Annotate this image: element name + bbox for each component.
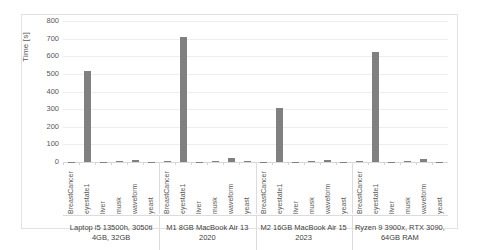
axis-tick-mark: [143, 162, 144, 165]
y-axis-tick-label: 500: [46, 70, 59, 78]
y-axis-tick-label: 600: [46, 53, 59, 61]
x-axis-category-label: yeast: [340, 197, 347, 214]
axis-tick-mark: [207, 162, 208, 165]
axis-tick-mark: [175, 162, 176, 165]
y-axis-tick-label: 0: [55, 158, 59, 166]
category-label-band: BreastCancereyestate1livermuskwaveformye…: [63, 162, 448, 214]
group-label: M1 8GB MacBook Air 13 2020: [159, 216, 255, 250]
axis-tick-mark: [304, 162, 305, 165]
x-axis-category-label: BreastCancer: [163, 171, 170, 214]
axis-tick-mark: [239, 162, 240, 165]
group-separator: [159, 216, 160, 250]
x-axis-category-label: eyestate1: [372, 184, 379, 214]
x-axis-category-label: liver: [195, 201, 202, 214]
axis-tick-mark: [127, 162, 128, 165]
axis-tick-mark: [288, 162, 289, 165]
group-label: Laptop i5 13500h, 3050ti 4GB, 32GB: [63, 216, 159, 250]
x-axis-category-label: musk: [115, 197, 122, 214]
y-axis-tick-label: 300: [46, 105, 59, 113]
group-separator-upper: [256, 162, 257, 214]
axis-tick-mark: [223, 162, 224, 165]
axis-tick-mark: [95, 162, 96, 165]
axis-tick-mark: [63, 162, 64, 165]
chart-container: Time [s] 0100200300400500600700800 Breas…: [21, 14, 458, 229]
group-separator-upper: [352, 162, 353, 214]
x-axis-category-label: liver: [99, 201, 106, 214]
x-axis-category-label: eyestate1: [179, 184, 186, 214]
bar: [84, 71, 91, 162]
x-axis-category-label: waveform: [227, 184, 234, 214]
x-axis-category-label: eyestate1: [276, 184, 283, 214]
bar-group: [159, 21, 255, 162]
group-label-text: M1 8GB MacBook Air 13 2020: [161, 223, 253, 243]
plot-area: 0100200300400500600700800: [63, 21, 448, 162]
group-label: M2 16GB MacBook Air 15 2023: [256, 216, 352, 250]
axis-tick-mark: [320, 162, 321, 165]
axis-tick-mark: [111, 162, 112, 165]
axis-tick-mark: [368, 162, 369, 165]
group-separator-upper: [159, 162, 160, 214]
group-separator: [352, 216, 353, 250]
x-axis-category-label: BreastCancer: [356, 171, 363, 214]
axis-tick-mark: [400, 162, 401, 165]
axis-tick-mark: [272, 162, 273, 165]
group-label-text: Ryzen 9 3900x, RTX 3090, 64GB RAM: [354, 223, 446, 243]
x-axis-category-label: BreastCancer: [260, 171, 267, 214]
x-axis-category-label: musk: [211, 197, 218, 214]
axis-tick-mark: [432, 162, 433, 165]
x-axis-category-label: yeast: [243, 197, 250, 214]
axis-tick-mark: [416, 162, 417, 165]
x-axis-category-label: waveform: [131, 184, 138, 214]
bar-group: [352, 21, 448, 162]
y-axis-title: Time [s]: [21, 7, 30, 87]
group-label-text: Laptop i5 13500h, 3050ti 4GB, 32GB: [65, 223, 157, 243]
x-axis-category-label: liver: [388, 201, 395, 214]
y-axis-tick-label: 800: [46, 17, 59, 25]
bar-group: [256, 21, 352, 162]
axis-tick-mark: [384, 162, 385, 165]
group-label-text: M2 16GB MacBook Air 15 2023: [258, 223, 350, 243]
axis-tick-mark: [79, 162, 80, 165]
x-axis-category-label: yeast: [436, 197, 443, 214]
y-axis-tick-label: 400: [46, 88, 59, 96]
bar: [276, 108, 283, 162]
x-axis-category-label: musk: [404, 197, 411, 214]
y-axis-tick-label: 100: [46, 141, 59, 149]
x-axis-category-label: eyestate1: [83, 184, 90, 214]
axis-tick-mark: [336, 162, 337, 165]
y-axis-tick-label: 200: [46, 123, 59, 131]
bar: [180, 37, 187, 162]
x-axis-category-label: musk: [308, 197, 315, 214]
x-axis-category-label: waveform: [420, 184, 427, 214]
group-separator: [256, 216, 257, 250]
group-label: Ryzen 9 3900x, RTX 3090, 64GB RAM: [352, 216, 448, 250]
axis-tick-mark: [191, 162, 192, 165]
x-axis-category-label: yeast: [147, 197, 154, 214]
bar: [372, 52, 379, 162]
x-axis-category-label: waveform: [324, 184, 331, 214]
group-label-band: Laptop i5 13500h, 3050ti 4GB, 32GBM1 8GB…: [63, 215, 448, 250]
bar-group: [63, 21, 159, 162]
y-axis-tick-label: 700: [46, 35, 59, 43]
x-axis-category-label: liver: [292, 201, 299, 214]
x-axis-category-label: BreastCancer: [67, 171, 74, 214]
